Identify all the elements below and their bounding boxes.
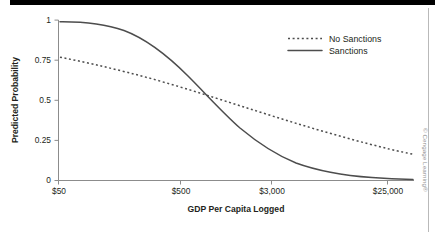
- copyright-credit: © Cengage Learning®: [422, 128, 429, 228]
- series-line-no-sanctions: [60, 57, 413, 154]
- y-tick-label-3: 0.75: [35, 55, 52, 65]
- y-tick-label-2: 0.5: [39, 95, 51, 105]
- legend-label-sanctions: Sanctions: [329, 46, 368, 56]
- x-tick-label-1: $500: [172, 186, 191, 196]
- x-tick-label-0: $50: [52, 186, 66, 196]
- legend-label-no-sanctions: No Sanctions: [329, 34, 382, 44]
- y-tick-label-0: 0: [46, 175, 51, 185]
- y-axis-ticks: [55, 20, 59, 180]
- x-axis-ticks: [59, 181, 388, 185]
- x-axis-title: GDP Per Capita Logged: [188, 204, 285, 214]
- x-tick-label-2: $3,000: [259, 186, 285, 196]
- y-tick-label-4: 1: [46, 15, 51, 25]
- x-tick-label-3: $25,000: [373, 186, 404, 196]
- figure-container: 0 0.25 0.5 0.75 1 $50 $500 $3,000 $25,00…: [0, 0, 445, 232]
- chart-legend: No Sanctions Sanctions: [288, 34, 382, 56]
- y-tick-label-1: 0.25: [35, 135, 52, 145]
- line-chart: 0 0.25 0.5 0.75 1 $50 $500 $3,000 $25,00…: [0, 0, 445, 232]
- y-axis-title: Predicted Probability: [10, 57, 20, 143]
